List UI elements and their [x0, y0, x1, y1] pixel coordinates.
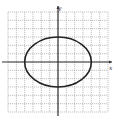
- axes: [2, 6, 112, 116]
- coordinate-plane: [0, 0, 115, 118]
- x-axis-label: x: [109, 64, 112, 71]
- y-axis-label: y: [58, 4, 61, 11]
